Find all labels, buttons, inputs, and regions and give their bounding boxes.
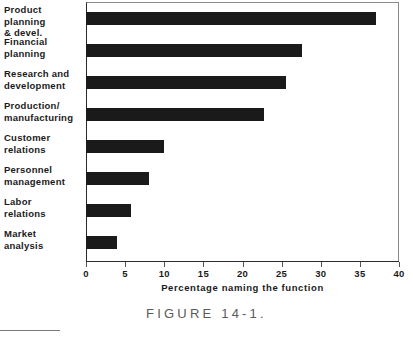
bar-track — [86, 12, 399, 25]
chart-row: Financial planning — [0, 36, 413, 68]
x-axis-tick — [125, 262, 126, 267]
bar-personnel-management[interactable] — [86, 172, 149, 185]
bar-track — [86, 140, 399, 153]
x-axis-tick-label: 35 — [347, 268, 373, 279]
x-axis-tick-label: 0 — [73, 268, 99, 279]
footer-rule — [0, 330, 60, 331]
bar-track — [86, 204, 399, 217]
x-axis-tick — [282, 262, 283, 267]
figure-caption: FIGURE 14-1. — [0, 306, 413, 321]
category-label-production-manufacturing: Production/ manufacturing — [4, 100, 82, 123]
x-axis-tick-label: 10 — [151, 268, 177, 279]
category-label-personnel-management: Personnel management — [4, 164, 82, 187]
chart-row: Personnel management — [0, 164, 413, 196]
chart-row: Product planning & devel. — [0, 4, 413, 36]
bar-product-planning[interactable] — [86, 12, 376, 25]
chart-row: Market analysis — [0, 228, 413, 260]
category-label-customer-relations: Customer relations — [4, 132, 82, 155]
bar-track — [86, 236, 399, 249]
bar-market-analysis[interactable] — [86, 236, 117, 249]
x-axis-tick — [164, 262, 165, 267]
bar-track — [86, 44, 399, 57]
footer-text — [30, 334, 390, 340]
x-axis-tick — [86, 262, 87, 267]
bar-customer-relations[interactable] — [86, 140, 164, 153]
bar-research-development[interactable] — [86, 76, 286, 89]
x-axis-tick — [321, 262, 322, 267]
x-axis-tick-label: 15 — [190, 268, 216, 279]
x-axis-tick — [243, 262, 244, 267]
bar-track — [86, 76, 399, 89]
category-label-product-planning: Product planning & devel. — [4, 4, 82, 39]
bar-track — [86, 172, 399, 185]
bar-financial-planning[interactable] — [86, 44, 302, 57]
chart-row: Production/ manufacturing — [0, 100, 413, 132]
bar-production-manufacturing[interactable] — [86, 108, 264, 121]
x-axis-tick-label: 30 — [308, 268, 334, 279]
x-axis-tick-label: 20 — [230, 268, 256, 279]
x-axis-title: Percentage naming the function — [86, 282, 399, 293]
x-axis-tick-label: 25 — [269, 268, 295, 279]
x-axis-tick-label: 40 — [386, 268, 412, 279]
chart-row: Customer relations — [0, 132, 413, 164]
bar-track — [86, 108, 399, 121]
chart-row: Research and development — [0, 68, 413, 100]
figure-bar-chart: Product planning & devel. Financial plan… — [0, 0, 413, 342]
category-label-labor-relations: Labor relations — [4, 196, 82, 219]
x-axis-tick — [360, 262, 361, 267]
category-label-research-development: Research and development — [4, 68, 82, 91]
x-axis-tick — [203, 262, 204, 267]
x-axis-tick-label: 5 — [112, 268, 138, 279]
x-axis-tick — [399, 262, 400, 267]
category-label-financial-planning: Financial planning — [4, 36, 82, 59]
chart-row: Labor relations — [0, 196, 413, 228]
bar-labor-relations[interactable] — [86, 204, 131, 217]
category-label-market-analysis: Market analysis — [4, 228, 82, 251]
